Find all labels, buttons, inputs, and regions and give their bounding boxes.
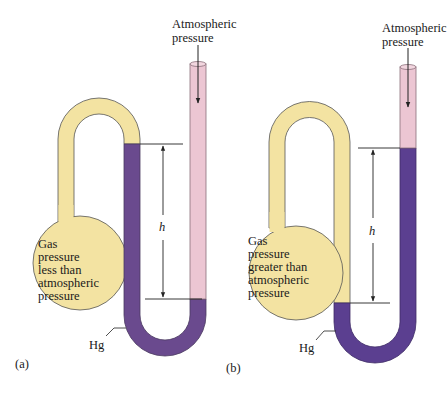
svg-text:atmospheric: atmospheric	[38, 276, 100, 290]
svg-text:greater than: greater than	[248, 260, 308, 274]
manometer-diagram: h Hg Atmospheric pressure Gas pressure l…	[0, 0, 447, 395]
panel-a-mercury-label: Hg	[89, 338, 105, 352]
svg-text:Gas: Gas	[248, 234, 268, 248]
svg-text:pressure: pressure	[38, 289, 80, 303]
svg-text:pressure: pressure	[38, 250, 80, 264]
svg-text:less than: less than	[38, 263, 82, 277]
svg-text:atmospheric: atmospheric	[248, 273, 310, 287]
panel-a-open-manometer: h Hg Atmospheric pressure Gas pressure l…	[15, 17, 237, 371]
panel-a-atmospheric-label-2: pressure	[172, 31, 214, 45]
svg-text:pressure: pressure	[248, 286, 290, 300]
panel-b-mercury-label: Hg	[299, 341, 315, 355]
panel-b-open-manometer: h Hg Atmospheric pressure Gas pressure g…	[226, 21, 447, 375]
panel-b-atmospheric-label-1: Atmospheric	[382, 21, 447, 35]
svg-text:pressure: pressure	[248, 247, 290, 261]
panel-a-caption: (a)	[15, 357, 29, 371]
panel-b-caption: (b)	[226, 361, 241, 375]
panel-a-height-label: h	[159, 220, 165, 234]
panel-b-atmospheric-label-2: pressure	[382, 35, 424, 49]
panel-b-height-label: h	[369, 224, 375, 238]
panel-a-atmospheric-label-1: Atmospheric	[172, 17, 237, 31]
svg-text:Gas: Gas	[38, 237, 58, 251]
